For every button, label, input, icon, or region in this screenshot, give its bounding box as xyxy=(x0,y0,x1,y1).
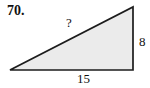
geometry-problem-figure: 70. ? 8 15 xyxy=(0,0,150,88)
base-label: 15 xyxy=(77,72,90,85)
hypotenuse-label: ? xyxy=(66,16,72,29)
height-label: 8 xyxy=(139,35,146,48)
problem-number: 70. xyxy=(7,4,25,18)
